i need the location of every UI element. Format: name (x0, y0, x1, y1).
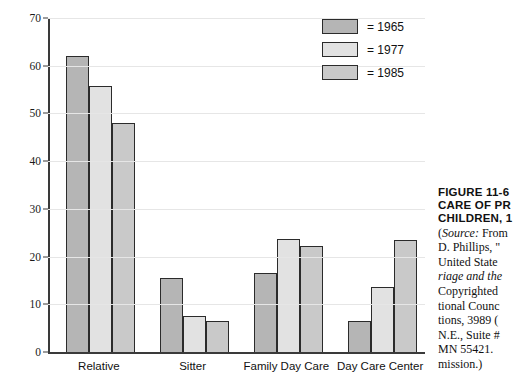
y-axis-tick-label: 70 (30, 12, 42, 24)
bar-group (160, 18, 229, 352)
caption-body-line: Copyrighted (438, 285, 519, 299)
y-axis-tick-label: 10 (30, 298, 42, 310)
x-axis-tick-label: Family Day Care (244, 360, 330, 372)
y-axis-tick-mark (43, 208, 48, 209)
caption-body-line: riage and the (438, 270, 519, 284)
y-axis-tick-mark (43, 65, 48, 66)
legend-item: = 1977 (322, 42, 404, 57)
caption-body-line: mission.) (438, 358, 519, 372)
legend-label: = 1965 (367, 20, 404, 34)
chart-legend: = 1965= 1977= 1985 (322, 19, 404, 80)
caption-body-line: United State (438, 256, 519, 270)
caption-body-line: tions, 3989 ( (438, 314, 519, 328)
legend-swatch (322, 42, 358, 57)
gridline (48, 257, 425, 258)
x-axis (48, 352, 425, 354)
bar (89, 86, 112, 352)
bar (254, 273, 277, 352)
gridline (48, 304, 425, 305)
y-axis-tick-mark (43, 18, 48, 19)
y-axis-tick-label: 50 (30, 107, 42, 119)
bar (300, 246, 323, 352)
bar-group (254, 18, 323, 352)
gridline (48, 113, 425, 114)
y-axis-tick-mark (43, 304, 48, 305)
x-axis-tick-label: Sitter (179, 360, 206, 372)
legend-item: = 1985 (322, 65, 404, 80)
figure-root: 010203040506070RelativeSitterFamily Day … (0, 0, 519, 385)
bar (160, 278, 183, 352)
bar (348, 321, 371, 352)
caption-body-line: D. Phillips, " (438, 241, 519, 255)
y-axis-tick-label: 40 (30, 155, 42, 167)
y-axis-tick-mark (43, 161, 48, 162)
legend-item: = 1965 (322, 19, 404, 34)
y-axis-tick-mark (43, 256, 48, 257)
figure-caption: FIGURE 11-6CARE OF PRCHILDREN, 1(Source:… (438, 186, 519, 372)
caption-body-line: tional Counc (438, 300, 519, 314)
y-axis-tick-mark (43, 352, 48, 353)
y-axis-tick-label: 0 (35, 346, 41, 358)
bar (66, 56, 89, 352)
bar (183, 316, 206, 352)
caption-title-line: CHILDREN, 1 (438, 212, 519, 225)
y-axis-tick-label: 30 (30, 203, 42, 215)
caption-body-line: MN 55421. (438, 343, 519, 357)
y-axis-tick-label: 60 (30, 60, 42, 72)
legend-swatch (322, 19, 358, 34)
x-axis-tick-label: Relative (78, 360, 120, 372)
bar-group (66, 18, 135, 352)
legend-swatch (322, 65, 358, 80)
x-axis-tick-label: Day Care Center (337, 360, 423, 372)
caption-body-line: (Source: From (438, 227, 519, 241)
caption-title-line: CARE OF PR (438, 199, 519, 212)
y-axis-tick-label: 20 (30, 251, 42, 263)
bar (371, 287, 394, 352)
bar (206, 321, 229, 352)
gridline (48, 161, 425, 162)
gridline (48, 209, 425, 210)
legend-label: = 1977 (367, 43, 404, 57)
caption-body-line: N.E., Suite # (438, 329, 519, 343)
legend-label: = 1985 (367, 66, 404, 80)
bar (112, 123, 135, 352)
caption-title-line: FIGURE 11-6 (438, 186, 519, 199)
y-axis-tick-mark (43, 113, 48, 114)
